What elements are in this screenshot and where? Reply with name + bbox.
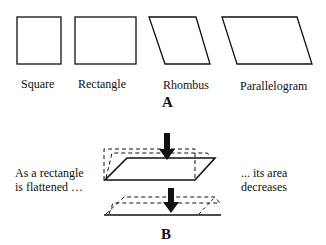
down-arrow-icon bbox=[163, 188, 179, 213]
parallelogram-label: Parallelogram bbox=[240, 80, 307, 93]
upper-flattening-figure bbox=[104, 133, 215, 180]
parallelogram-shape bbox=[222, 17, 312, 64]
panel-b-label: B bbox=[161, 226, 171, 243]
rhombus-label: Rhombus bbox=[163, 79, 209, 92]
rhombus-shape bbox=[149, 17, 210, 64]
square-shape bbox=[17, 17, 61, 64]
right-caption-line2: decreases bbox=[241, 181, 287, 194]
left-caption-line1: As a rectangle bbox=[15, 167, 84, 180]
diagram-canvas bbox=[0, 0, 326, 245]
down-arrow-icon bbox=[159, 133, 175, 160]
panel-a-label: A bbox=[162, 94, 173, 111]
rectangle-label: Rectangle bbox=[78, 78, 126, 91]
lower-flattening-figure bbox=[104, 188, 221, 215]
rectangle-shape bbox=[75, 17, 136, 64]
square-label: Square bbox=[21, 78, 54, 91]
right-caption-line1: ... its area bbox=[241, 167, 287, 180]
left-caption-line2: is flattened … bbox=[15, 181, 83, 194]
